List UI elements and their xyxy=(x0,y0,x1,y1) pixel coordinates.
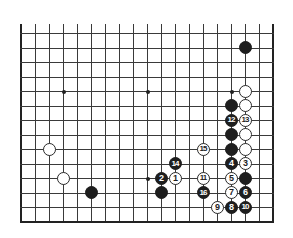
white-stone-move-15: 15 xyxy=(197,143,210,156)
go-board: 12134357698101514211116 xyxy=(0,0,293,238)
black-stone-move-4: 4 xyxy=(225,157,238,170)
grid-horizontal-line xyxy=(20,33,274,34)
move-number: 12 xyxy=(228,116,235,124)
move-number: 10 xyxy=(242,203,249,211)
white-stone xyxy=(239,99,252,112)
white-stone-move-13: 13 xyxy=(239,114,252,127)
move-number: 11 xyxy=(200,174,206,182)
grid-horizontal-line xyxy=(20,77,274,78)
move-number: 6 xyxy=(243,188,247,197)
black-stone xyxy=(155,186,168,199)
white-stone xyxy=(239,143,252,156)
black-stone xyxy=(85,186,98,199)
move-number: 8 xyxy=(229,203,233,212)
white-stone-move-9: 9 xyxy=(211,201,224,214)
move-number: 7 xyxy=(229,188,233,197)
move-number: 2 xyxy=(159,174,163,183)
move-number: 1 xyxy=(173,174,177,183)
white-stone xyxy=(239,85,252,98)
move-number: 15 xyxy=(200,145,207,153)
move-number: 3 xyxy=(243,159,247,168)
white-stone xyxy=(57,172,70,185)
black-stone-move-8: 8 xyxy=(225,201,238,214)
black-stone-move-16: 16 xyxy=(197,186,210,199)
grid-horizontal-line xyxy=(20,221,274,223)
star-point xyxy=(62,90,66,94)
black-stone-move-14: 14 xyxy=(169,157,182,170)
black-stone-move-2: 2 xyxy=(155,172,168,185)
black-stone xyxy=(225,143,238,156)
move-number: 9 xyxy=(215,203,219,212)
white-stone-move-1: 1 xyxy=(169,172,182,185)
move-number: 13 xyxy=(242,116,249,124)
white-stone-move-7: 7 xyxy=(225,186,238,199)
black-stone xyxy=(225,128,238,141)
black-stone-move-6: 6 xyxy=(239,186,252,199)
white-stone xyxy=(43,143,56,156)
star-point xyxy=(230,90,234,94)
black-stone-move-12: 12 xyxy=(225,114,238,127)
black-stone xyxy=(239,172,252,185)
move-number: 5 xyxy=(229,174,233,183)
white-stone xyxy=(239,128,252,141)
white-stone-move-5: 5 xyxy=(225,172,238,185)
star-point xyxy=(146,90,150,94)
grid-horizontal-line xyxy=(20,48,274,49)
move-number: 16 xyxy=(200,189,207,197)
white-stone-move-11: 11 xyxy=(197,172,210,185)
grid-horizontal-line xyxy=(20,62,274,63)
star-point xyxy=(146,177,150,181)
black-stone-move-10: 10 xyxy=(239,201,252,214)
move-number: 4 xyxy=(229,159,233,168)
move-number: 14 xyxy=(172,160,179,168)
white-stone-move-3: 3 xyxy=(239,157,252,170)
black-stone xyxy=(225,99,238,112)
black-stone xyxy=(239,41,252,54)
